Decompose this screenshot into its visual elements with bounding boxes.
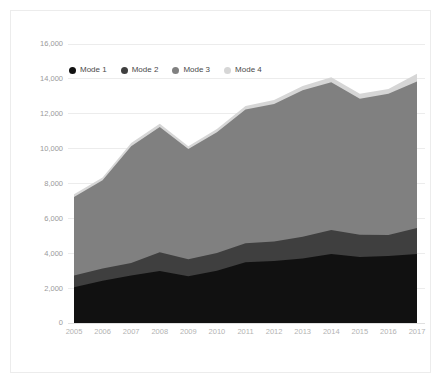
x-axis-tick-label: 2005	[66, 327, 83, 336]
x-axis-tick-label: 2014	[323, 327, 340, 336]
y-axis-tick-label: 14,000	[40, 74, 63, 83]
y-axis-tick-label: 12,000	[40, 109, 63, 118]
x-axis-tick-label: 2006	[94, 327, 111, 336]
x-axis-tick-label: 2010	[209, 327, 226, 336]
area-series-group	[74, 74, 417, 323]
y-axis-tick-label: 16,000	[40, 39, 63, 48]
y-axis-tick-label: 6,000	[44, 214, 63, 223]
legend-item-label: Mode 2	[132, 66, 159, 74]
x-axis-tick-label: 2013	[294, 327, 311, 336]
y-axis-tick-label: 0	[59, 318, 63, 327]
legend-swatch-icon	[121, 67, 128, 74]
legend-item-mode-4[interactable]: Mode 4	[224, 66, 262, 74]
legend-item-mode-2[interactable]: Mode 2	[121, 66, 159, 74]
x-axis-tick-label: 2016	[380, 327, 397, 336]
legend-item-mode-1[interactable]: Mode 1	[69, 66, 107, 74]
legend-item-mode-3[interactable]: Mode 3	[172, 66, 210, 74]
x-axis-tick-label: 2011	[237, 327, 253, 336]
x-axis-tick-label: 2015	[351, 327, 368, 336]
legend-swatch-icon	[69, 67, 76, 74]
y-axis-tick-label: 4,000	[44, 249, 63, 258]
chart-card: 02,0004,0006,0008,00010,00012,00014,0001…	[10, 10, 431, 373]
x-axis-tick-label: 2009	[180, 327, 197, 336]
x-axis-tick-label: 2007	[123, 327, 140, 336]
y-axis-tick-label: 2,000	[44, 284, 63, 293]
x-axis-tick-labels: 2005200620072008200920102011201220132014…	[66, 327, 426, 336]
legend-swatch-icon	[172, 67, 179, 74]
chart-legend: Mode 1Mode 2Mode 3Mode 4	[69, 66, 262, 74]
legend-item-label: Mode 3	[183, 66, 210, 74]
legend-item-label: Mode 4	[235, 66, 262, 74]
y-axis-tick-labels: 02,0004,0006,0008,00010,00012,00014,0001…	[40, 39, 63, 327]
x-axis-tick-label: 2008	[151, 327, 168, 336]
legend-item-label: Mode 1	[80, 66, 107, 74]
y-axis-tick-label: 10,000	[40, 144, 63, 153]
x-axis-tick-label: 2017	[409, 327, 426, 336]
legend-swatch-icon	[224, 67, 231, 74]
y-axis-tick-label: 8,000	[44, 179, 63, 188]
x-axis-tick-label: 2012	[266, 327, 283, 336]
